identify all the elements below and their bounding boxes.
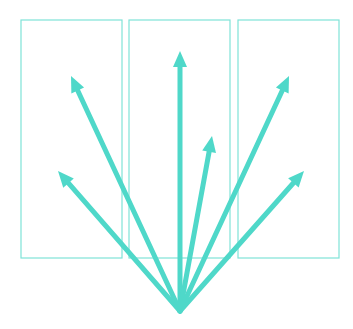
panel-3 bbox=[238, 20, 339, 258]
fan-arrows-diagram bbox=[0, 0, 353, 329]
arrow-2-icon bbox=[71, 76, 180, 311]
panel-1 bbox=[21, 20, 122, 258]
arrow-6-icon bbox=[180, 171, 304, 311]
arrow-4-icon bbox=[180, 136, 216, 311]
arrow-5-icon bbox=[180, 76, 289, 311]
arrow-1-icon bbox=[58, 171, 180, 311]
arrows bbox=[58, 51, 304, 312]
